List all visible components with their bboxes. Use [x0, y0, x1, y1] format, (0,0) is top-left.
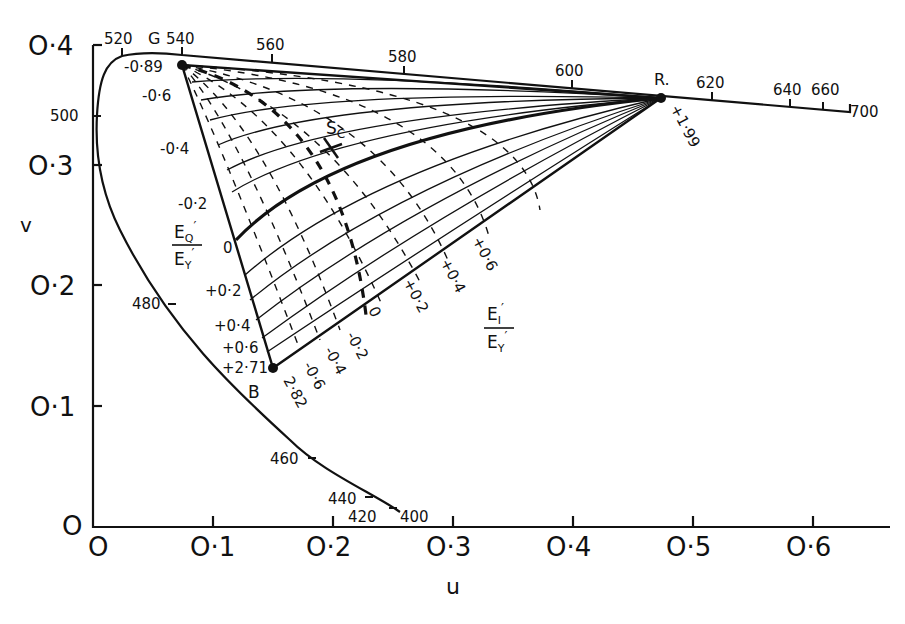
- x-tick-labels: O O·1 O·2 O·3 O·4 O·5 O·6: [88, 532, 831, 562]
- i-label-pos02: +0·2: [399, 275, 432, 316]
- red-primary-label: R.: [654, 70, 670, 89]
- wl-520: 520: [104, 30, 133, 48]
- y-tick-0.3: O·3: [28, 151, 73, 181]
- q-ratio-numerator: EQ′: [174, 218, 196, 245]
- i-label-neg04: -0·4: [320, 343, 350, 377]
- y-tick-0.2: O·2: [30, 271, 75, 301]
- wl-620: 620: [696, 74, 725, 92]
- wl-500: 500: [50, 107, 79, 125]
- x-axis-label: u: [446, 574, 460, 599]
- x-tick-0.2: O·2: [306, 532, 351, 562]
- x-tick-0.5: O·5: [666, 532, 711, 562]
- wl-700: 700: [850, 103, 879, 121]
- chromaticity-diagram: O·4 O·3 O·2 O·1 O v O O·1 O·2 O·3 O·4 O·…: [0, 0, 905, 624]
- q-label-neg02: -0·2: [178, 195, 207, 213]
- wl-580: 580: [388, 48, 417, 66]
- i-label-0: 0: [364, 303, 384, 320]
- wl-440: 440: [328, 490, 357, 508]
- wl-540: 540: [166, 30, 195, 48]
- wl-600: 600: [555, 62, 584, 80]
- q-label-neg089: -0·89: [124, 58, 163, 76]
- y-axis-label: v: [20, 213, 32, 237]
- x-tick-0.3: O·3: [426, 532, 471, 562]
- i-label-pos06: +0·6: [468, 233, 501, 274]
- i-ratio-numerator: EI′: [487, 300, 504, 327]
- q-ratio-label: EQ′ EY′: [172, 218, 202, 272]
- x-tick-0: O: [88, 532, 108, 562]
- q-label-neg04: -0·4: [160, 140, 189, 158]
- y-tick-0.1: O·1: [30, 392, 75, 422]
- wl-400: 400: [400, 508, 429, 526]
- i-ratio-label: EI′ EY′: [484, 300, 514, 355]
- x-tick-0.6: O·6: [786, 532, 831, 562]
- i-ratio-denominator: EY′: [487, 328, 507, 355]
- q-label-pos06: +0·6: [222, 339, 258, 357]
- q-label-pos02: +0·2: [205, 282, 241, 300]
- wl-560: 560: [256, 36, 285, 54]
- wl-660: 660: [811, 81, 840, 99]
- wl-420: 420: [348, 508, 377, 526]
- y-tick-0.4: O·4: [28, 31, 73, 61]
- blue-primary-label: B: [248, 382, 260, 402]
- x-tick-0.4: O·4: [546, 532, 591, 562]
- x-tick-0.1: O·1: [190, 532, 235, 562]
- blue-primary-dot: [268, 363, 278, 373]
- wl-460: 460: [270, 450, 299, 468]
- q-label-neg06: -0·6: [142, 87, 171, 105]
- wl-640: 640: [773, 81, 802, 99]
- q-ratio-denominator: EY′: [174, 245, 194, 272]
- i-label-pos04: +0·4: [436, 255, 469, 296]
- q-label-0: 0: [223, 239, 233, 257]
- i-label-pos199: +1·99: [666, 101, 703, 150]
- q-label-pos271: +2·71: [222, 359, 268, 377]
- y-tick-0: O: [62, 511, 82, 541]
- wl-480: 480: [132, 295, 161, 313]
- red-primary-dot: [656, 93, 666, 103]
- q-label-pos04: +0·4: [214, 317, 250, 335]
- white-point-label: SC: [326, 118, 345, 141]
- green-primary-label: G: [148, 29, 160, 48]
- green-primary-dot: [177, 60, 187, 70]
- i-label-neg02: -0·2: [342, 328, 372, 362]
